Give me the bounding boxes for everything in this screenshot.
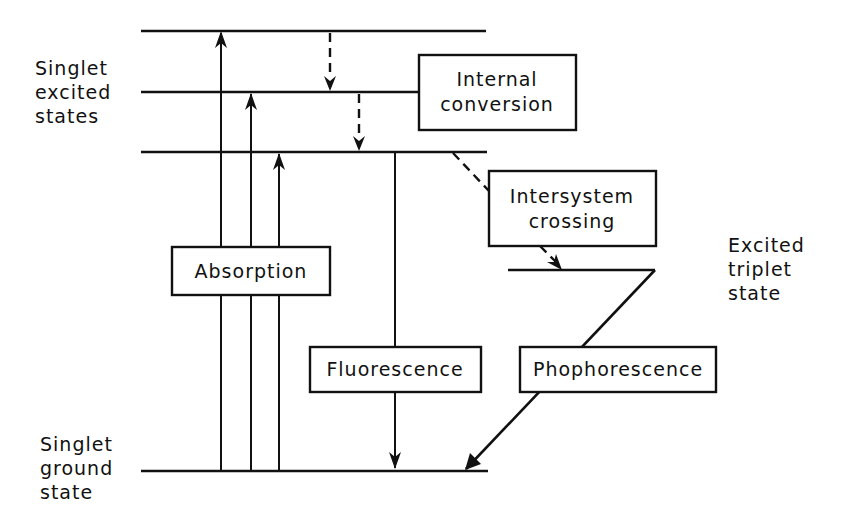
absorption-box: Absorption — [172, 247, 330, 295]
singlet-excited-states-label: Singlet excited states — [35, 57, 111, 127]
internal-conversion-label-line-2: conversion — [440, 93, 554, 115]
phosphorescence-label: Phophorescence — [533, 358, 703, 380]
label-line: state — [40, 481, 93, 503]
intersystem-crossing-label-line-2: crossing — [529, 210, 616, 232]
label-line: states — [35, 105, 99, 127]
isc-arrow-segment-1 — [453, 153, 489, 191]
intersystem-crossing-label-line-1: Intersystem — [510, 185, 634, 207]
label-line: excited — [35, 81, 111, 103]
fluorescence-box: Fluorescence — [310, 347, 481, 392]
absorption-label: Absorption — [195, 260, 308, 282]
label-line: Singlet — [40, 433, 113, 455]
intersystem-crossing-box: Intersystem crossing — [489, 171, 656, 246]
internal-conversion-box: Internal conversion — [419, 55, 576, 130]
label-line: Singlet — [35, 57, 108, 79]
jablonski-diagram: Internal conversion Intersystem crossing… — [0, 0, 849, 530]
excited-triplet-state-label: Excited triplet state — [728, 234, 805, 304]
isc-arrow-segment-2 — [540, 246, 556, 262]
phosphorescence-box: Phophorescence — [520, 347, 716, 392]
arrowhead-icon — [547, 254, 562, 270]
label-line: state — [728, 282, 781, 304]
internal-conversion-label-line-1: Internal — [456, 68, 537, 90]
label-line: triplet — [728, 258, 792, 280]
label-line: Excited — [728, 234, 805, 256]
fluorescence-label: Fluorescence — [326, 358, 463, 380]
label-line: ground — [40, 457, 113, 479]
arrowhead-icon — [324, 76, 336, 91]
arrowhead-icon — [353, 136, 365, 151]
singlet-ground-state-label: Singlet ground state — [40, 433, 113, 503]
fluorescence-arrow — [389, 152, 401, 469]
